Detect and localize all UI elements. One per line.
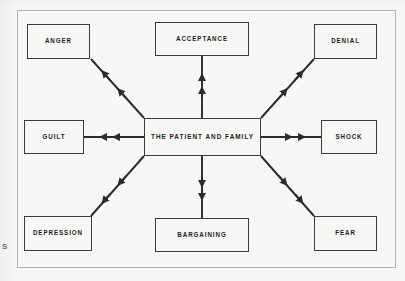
node-denial-label: DENIAL <box>331 38 360 45</box>
node-acceptance[interactable]: ACCEPTANCE <box>155 22 249 56</box>
scanned-page: S <box>0 0 405 281</box>
node-shock[interactable]: SHOCK <box>321 120 377 154</box>
node-bargaining-label: BARGAINING <box>177 231 226 238</box>
arrowhead-center-depression-2 <box>104 194 110 201</box>
arrowhead-center-depression-1 <box>120 176 126 183</box>
node-anger-label: ANGER <box>45 38 72 45</box>
node-center-label: THE PATIENT AND FAMILY <box>151 133 254 141</box>
node-guilt[interactable]: GUILT <box>24 120 84 154</box>
arrowhead-center-anger-1 <box>120 91 126 98</box>
node-fear[interactable]: FEAR <box>314 216 377 251</box>
node-guilt-label: GUILT <box>43 133 66 140</box>
node-bargaining[interactable]: BARGAINING <box>155 218 249 252</box>
node-denial[interactable]: DENIAL <box>314 24 377 59</box>
arrowhead-center-fear-1 <box>279 176 285 183</box>
arrowhead-center-anger-2 <box>104 73 110 80</box>
node-depression[interactable]: DEPRESSION <box>24 216 92 251</box>
node-depression-label: DEPRESSION <box>33 230 83 237</box>
connector-center-anger <box>91 59 144 118</box>
node-acceptance-label: ACCEPTANCE <box>176 35 228 42</box>
node-anger[interactable]: ANGER <box>27 24 90 59</box>
arrowhead-center-denial-2 <box>295 73 301 80</box>
node-fear-label: FEAR <box>335 230 356 237</box>
node-shock-label: SHOCK <box>335 133 362 140</box>
node-center-patient-and-family[interactable]: THE PATIENT AND FAMILY <box>144 118 261 156</box>
connector-center-denial <box>261 59 314 118</box>
connector-center-fear <box>261 156 314 216</box>
arrowhead-center-denial-1 <box>279 91 285 98</box>
arrowhead-center-fear-2 <box>295 194 301 201</box>
connector-center-depression <box>91 156 144 216</box>
